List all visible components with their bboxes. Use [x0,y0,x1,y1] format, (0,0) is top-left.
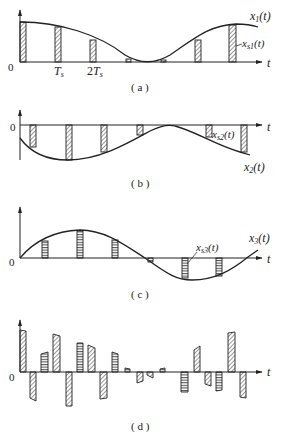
origin-label-d: 0 [9,371,15,383]
curve-label-x3: x3(t) [248,231,270,246]
sampling-figure: 0 Ts 2Ts t x1(t) xs1(t) ( a ) 0 t xs2(t)… [0,0,284,442]
t-label-c: t [267,252,271,266]
tick-ts: Ts [54,64,64,79]
caption-a: ( a ) [131,81,149,94]
sample-label-xs2: xs2(t) [211,128,235,142]
caption-b: ( b ) [131,177,150,190]
panel-a: 0 Ts 2Ts t x1(t) xs1(t) ( a ) [8,9,271,94]
curve-label-x1: x1(t) [249,9,271,24]
tick-2ts: 2Ts [87,64,103,79]
origin-label-a: 0 [8,61,14,73]
origin-label-c: 0 [9,256,15,268]
panel-b: 0 t xs2(t) x2(t) ( b ) [10,110,271,190]
curve-label-x2: x2(t) [243,160,265,175]
samples-d [20,330,246,406]
caption-c: ( c ) [131,288,149,301]
panel-d: 0 t ( d ) [9,320,271,433]
t-label-d: t [267,365,271,379]
sample-label-xs3: xs3(t) [195,241,219,255]
t-label-b: t [267,120,271,134]
sample-label-xs1: xs1(t) [241,37,265,51]
origin-label-b: 0 [10,121,16,133]
panel-c: 0 t x3(t) xs3(t) ( c ) [9,207,271,301]
t-label-a: t [267,56,271,70]
caption-d: ( d ) [131,420,150,433]
